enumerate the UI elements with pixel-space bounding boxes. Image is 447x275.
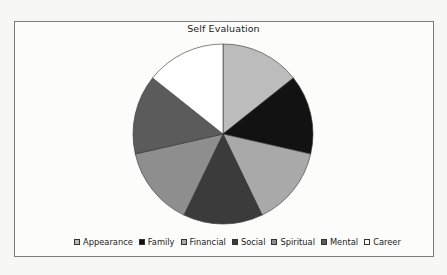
legend-item-career: Career xyxy=(364,237,401,247)
legend-item-spiritual: Spiritual xyxy=(271,237,314,247)
legend-swatch xyxy=(139,239,145,245)
legend-label: Career xyxy=(373,237,401,247)
legend-swatch xyxy=(74,239,80,245)
legend-label: Social xyxy=(241,237,266,247)
legend-item-financial: Financial xyxy=(181,237,226,247)
legend-label: Appearance xyxy=(83,237,133,247)
legend-swatch xyxy=(232,239,238,245)
legend-swatch xyxy=(181,239,187,245)
legend-item-social: Social xyxy=(232,237,266,247)
legend-item-appearance: Appearance xyxy=(74,237,133,247)
legend-swatch xyxy=(271,239,277,245)
legend-label: Financial xyxy=(190,237,226,247)
legend-swatch xyxy=(364,239,370,245)
legend-label: Spiritual xyxy=(280,237,314,247)
legend-label: Mental xyxy=(330,237,358,247)
legend-item-mental: Mental xyxy=(321,237,358,247)
legend-swatch xyxy=(321,239,327,245)
legend-label: Family xyxy=(148,237,175,247)
chart-legend: Appearance Family Financial Social Spiri… xyxy=(74,237,407,247)
legend-item-family: Family xyxy=(139,237,175,247)
pie-chart xyxy=(0,0,447,275)
